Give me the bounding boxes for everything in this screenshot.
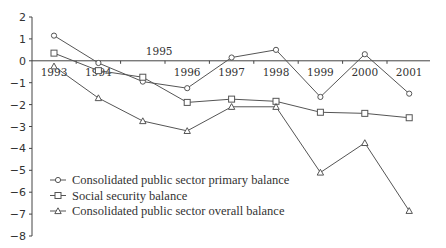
legend-marker-diamond (55, 177, 60, 182)
y-tick-label: −1 (10, 77, 26, 90)
y-tick-label: 2 (19, 11, 26, 24)
x-tick-label: 2000 (351, 66, 378, 78)
x-tick-label: 1999 (307, 66, 334, 78)
data-point-square (362, 110, 368, 116)
y-axis: 210−1−2−3−4−5−6−7−8 (10, 11, 32, 243)
data-point-diamond (185, 86, 190, 91)
x-tick-label: 1997 (218, 66, 245, 78)
x-tick-label: 2001 (396, 66, 423, 78)
legend: Consolidated public sector primary balan… (50, 173, 290, 218)
legend-item: Social security balance (50, 189, 188, 203)
legend-label: Consolidated public sector overall balan… (72, 204, 285, 218)
y-tick-label: −3 (10, 121, 26, 134)
data-point-square (95, 68, 101, 74)
legend-marker-square (55, 193, 61, 199)
x-axis: 199319941995199619971998199920002001 (32, 45, 430, 78)
data-point-diamond (51, 33, 56, 38)
y-tick-label: 1 (19, 33, 26, 46)
line-chart: 210−1−2−3−4−5−6−7−8 19931994199519961997… (0, 0, 446, 248)
data-point-diamond (318, 94, 323, 99)
data-point-square (317, 109, 323, 115)
y-tick-label: −2 (10, 99, 26, 112)
x-tick-label: 1995 (146, 45, 173, 57)
data-point-square (51, 50, 57, 56)
y-tick-label: −6 (10, 186, 26, 199)
data-point-triangle (362, 140, 368, 146)
x-tick-label: 1996 (174, 66, 201, 78)
data-point-diamond (407, 91, 412, 96)
y-tick-label: −5 (10, 164, 26, 177)
data-point-square (184, 99, 190, 105)
data-point-diamond (229, 55, 234, 60)
legend-item: Consolidated public sector overall balan… (50, 204, 285, 218)
data-point-diamond (273, 47, 278, 52)
data-point-square (406, 115, 412, 121)
legend-label: Consolidated public sector primary balan… (72, 173, 290, 187)
y-tick-label: −7 (10, 208, 26, 221)
data-point-diamond (96, 60, 101, 65)
data-point-triangle (95, 95, 101, 101)
data-point-triangle (140, 118, 146, 124)
y-tick-label: 0 (19, 55, 26, 68)
y-tick-label: −4 (10, 142, 26, 155)
data-point-triangle (406, 208, 412, 214)
y-tick-label: −8 (10, 230, 26, 243)
x-tick-label: 1998 (263, 66, 290, 78)
data-point-square (229, 96, 235, 102)
data-point-triangle (317, 169, 323, 175)
data-point-square (140, 74, 146, 80)
data-point-diamond (362, 52, 367, 57)
legend-item: Consolidated public sector primary balan… (50, 173, 290, 187)
legend-label: Social security balance (72, 189, 188, 203)
